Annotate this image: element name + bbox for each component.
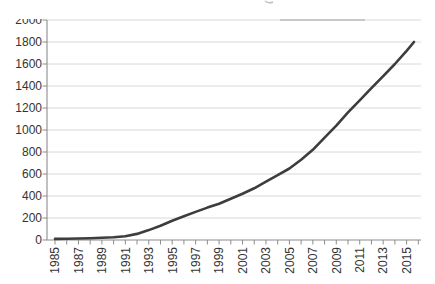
y-axis-label: 400	[22, 189, 42, 203]
x-axis-label: 1991	[119, 247, 133, 274]
x-axis-label: 1989	[95, 247, 109, 274]
x-axis-label: 1987	[72, 247, 86, 274]
scanned-chart-page: 0200400600800100012001400160018002000198…	[0, 0, 435, 284]
x-axis-label: 2015	[400, 247, 414, 274]
scan-artifact-smudge	[280, 19, 365, 21]
x-axis-label: 1997	[189, 247, 203, 274]
y-axis-label: 1800	[15, 35, 42, 49]
y-axis-label: 600	[22, 167, 42, 181]
x-axis-label: 1995	[166, 247, 180, 274]
line-chart: 0200400600800100012001400160018002000198…	[0, 0, 435, 284]
x-axis-label: 1985	[48, 247, 62, 274]
chart-canvas: 0200400600800100012001400160018002000198…	[0, 0, 435, 284]
x-axis-label: 2007	[306, 247, 320, 274]
y-axis-label: 2000	[15, 13, 42, 27]
y-axis-label: 1400	[15, 79, 42, 93]
y-axis-label: 200	[22, 211, 42, 225]
y-axis-label: 0	[35, 233, 42, 247]
series-line	[55, 42, 414, 239]
y-axis-label: 800	[22, 145, 42, 159]
x-axis-label: 2009	[330, 247, 344, 274]
y-axis-label: 1200	[15, 101, 42, 115]
x-axis-label: 2005	[283, 247, 297, 274]
x-axis-label: 1993	[142, 247, 156, 274]
x-axis-label: 2001	[236, 247, 250, 274]
scan-artifact-mark	[265, 1, 273, 3]
x-axis-label: 2011	[353, 247, 367, 273]
y-axis-label: 1600	[15, 57, 42, 71]
x-axis-label: 1999	[212, 247, 226, 274]
x-axis-label: 2013	[376, 247, 390, 274]
x-axis-label: 2003	[259, 247, 273, 274]
y-axis-label: 1000	[15, 123, 42, 137]
